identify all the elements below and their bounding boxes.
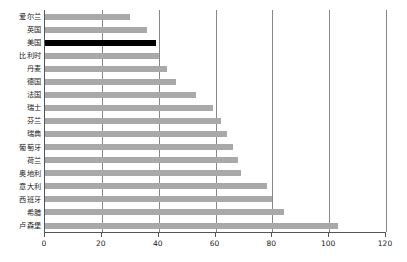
bar-row xyxy=(45,167,386,180)
category-axis: 爱尔兰 英国 美国 比利时 丹麦 德国 法国 瑞士 芬兰 瑞典 葡萄牙 荷兰 奥… xyxy=(0,10,44,232)
bar-丹麦 xyxy=(45,66,167,72)
category-label-finland: 芬兰 xyxy=(0,115,44,128)
bar-row xyxy=(45,193,386,206)
bar-row xyxy=(45,180,386,193)
tick-mark-40 xyxy=(158,233,159,237)
bar-row xyxy=(45,141,386,154)
tick-label-120: 120 xyxy=(378,239,392,248)
tick-mark-20 xyxy=(101,233,102,237)
bar-row xyxy=(45,23,386,36)
bar-芬兰 xyxy=(45,118,221,124)
category-label-luxembourg: 卢森堡 xyxy=(0,219,44,232)
tick-mark-0 xyxy=(44,233,45,237)
category-label-france: 法国 xyxy=(0,88,44,101)
tick-label-0: 0 xyxy=(42,239,47,248)
category-label-ireland: 爱尔兰 xyxy=(0,10,44,23)
category-label-netherlands: 荷兰 xyxy=(0,154,44,167)
bar-比利时 xyxy=(45,53,159,59)
category-label-usa: 美国 xyxy=(0,36,44,49)
bar-row xyxy=(45,75,386,88)
category-label-austria: 奥地利 xyxy=(0,167,44,180)
category-label-germany: 德国 xyxy=(0,75,44,88)
bar-row xyxy=(45,36,386,49)
bar-row xyxy=(45,115,386,128)
bar-row xyxy=(45,219,386,232)
bar-series xyxy=(45,10,386,232)
category-label-sweden: 瑞典 xyxy=(0,128,44,141)
bar-瑞典 xyxy=(45,131,227,137)
plot-area xyxy=(44,10,386,233)
category-label-switzerland: 瑞士 xyxy=(0,101,44,114)
tick-mark-120 xyxy=(385,233,386,237)
bar-row xyxy=(45,88,386,101)
value-axis: 020406080100120 xyxy=(44,233,385,255)
category-label-uk: 英国 xyxy=(0,23,44,36)
tick-mark-100 xyxy=(328,233,329,237)
bar-德国 xyxy=(45,79,176,85)
bar-row xyxy=(45,49,386,62)
gridline-120 xyxy=(386,10,387,232)
bar-row xyxy=(45,206,386,219)
tick-mark-60 xyxy=(215,233,216,237)
bar-希腊 xyxy=(45,209,284,215)
bar-卢森堡 xyxy=(45,223,338,229)
tick-label-60: 60 xyxy=(210,239,220,248)
bar-法国 xyxy=(45,92,196,98)
tick-mark-80 xyxy=(271,233,272,237)
tick-label-80: 80 xyxy=(267,239,277,248)
bar-葡萄牙 xyxy=(45,144,233,150)
bar-美国 xyxy=(45,40,156,46)
tick-label-100: 100 xyxy=(321,239,335,248)
bar-row xyxy=(45,101,386,114)
bar-chart: 爱尔兰 英国 美国 比利时 丹麦 德国 法国 瑞士 芬兰 瑞典 葡萄牙 荷兰 奥… xyxy=(0,0,407,262)
bar-意大利 xyxy=(45,183,267,189)
category-label-belgium: 比利时 xyxy=(0,49,44,62)
bar-row xyxy=(45,154,386,167)
bar-row xyxy=(45,128,386,141)
bar-荷兰 xyxy=(45,157,238,163)
bar-row xyxy=(45,10,386,23)
tick-label-20: 20 xyxy=(96,239,106,248)
bar-row xyxy=(45,62,386,75)
category-label-portugal: 葡萄牙 xyxy=(0,141,44,154)
bar-英国 xyxy=(45,27,147,33)
category-label-denmark: 丹麦 xyxy=(0,62,44,75)
bar-瑞士 xyxy=(45,105,213,111)
bar-奥地利 xyxy=(45,170,241,176)
bar-爱尔兰 xyxy=(45,14,130,20)
bar-西班牙 xyxy=(45,196,272,202)
tick-label-40: 40 xyxy=(153,239,163,248)
category-label-italy: 意大利 xyxy=(0,180,44,193)
category-label-greece: 希腊 xyxy=(0,206,44,219)
category-label-spain: 西班牙 xyxy=(0,193,44,206)
